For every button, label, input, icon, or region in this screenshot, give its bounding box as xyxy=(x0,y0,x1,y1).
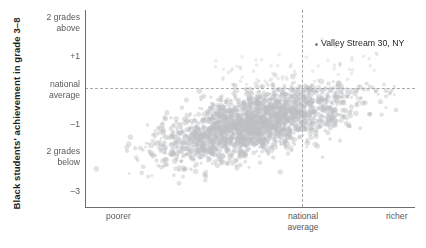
y-axis-title: Black students' achievement in grade 3–8 xyxy=(11,14,22,214)
y-axis-line xyxy=(85,10,86,207)
x-tick-richer: richer xyxy=(386,211,408,222)
y-tick-minus-3: –3 xyxy=(70,186,80,197)
y-tick-national-average: national average xyxy=(49,79,80,100)
x-tick-national-average: national average xyxy=(277,211,329,232)
y-tick-2-grades-below: 2 grades below xyxy=(47,146,80,167)
y-tick-minus-1: –1 xyxy=(70,119,80,130)
x-axis-line xyxy=(85,207,415,208)
valley-stream-annotation-label: Valley Stream 30, NY xyxy=(321,38,404,48)
valley-stream-point-marker xyxy=(315,43,318,46)
y-tick-plus-1: +1 xyxy=(70,51,80,62)
national-average-vertical-reference-line xyxy=(302,10,303,207)
y-tick-2-grades-above: 2 grades above xyxy=(47,12,80,33)
scatter-chart: Black students' achievement in grade 3–8… xyxy=(0,0,426,248)
x-tick-poorer: poorer xyxy=(106,211,131,222)
national-average-horizontal-reference-line xyxy=(85,88,415,89)
